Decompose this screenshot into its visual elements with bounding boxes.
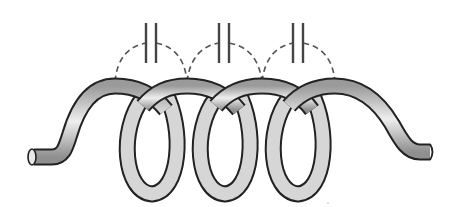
capacitor [293,23,303,63]
dashed-arc [303,43,335,82]
left-wire-end-cap [28,149,36,165]
dashed-arc [115,43,146,82]
speck [327,202,329,204]
coil-wire [34,86,430,157]
dashed-arc [262,43,293,82]
capacitor [146,23,156,63]
right-wire-end-cap [430,144,433,160]
coil-svg [0,0,464,207]
coil-diagram: Coil with inter-turn parasitic capacitan… [0,0,464,207]
capacitor [219,23,229,63]
dashed-arc [187,43,219,82]
dashed-arc [156,43,187,82]
dashed-arc [229,43,262,82]
